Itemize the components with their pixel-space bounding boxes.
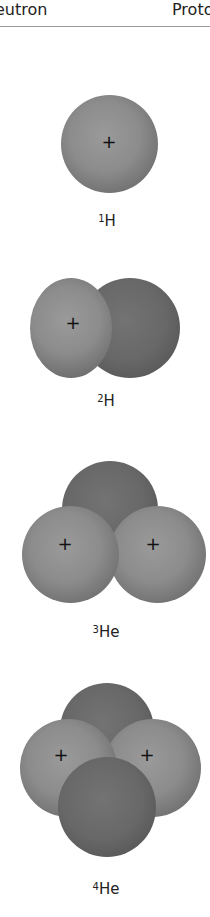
proton-sphere [109,506,206,603]
proton-legend-label: Proton [172,0,210,20]
nucleus-label: 4He [66,880,146,898]
mass-number: 3 [93,624,99,635]
plus-charge-icon: + [100,133,118,151]
mass-number: 2 [97,393,103,404]
plus-charge-icon: + [138,746,156,764]
mass-number: 4 [93,881,99,892]
nucleus-label: 2H [66,392,146,410]
element-symbol: He [99,880,120,898]
mass-number: 1 [98,213,104,224]
nucleus-label: 3He [66,623,146,641]
proton-sphere [22,506,119,603]
plus-charge-icon: + [144,535,162,553]
element-symbol: He [99,623,120,641]
header-divider [0,26,210,27]
element-symbol: H [105,212,116,230]
plus-charge-icon: + [52,746,70,764]
plus-charge-icon: + [56,535,74,553]
plus-charge-icon: + [64,314,82,332]
neutron-legend-label: Neutron [0,0,47,20]
neutron-sphere [58,757,156,857]
nucleus-label: 1H [67,212,147,230]
element-symbol: H [104,392,115,410]
